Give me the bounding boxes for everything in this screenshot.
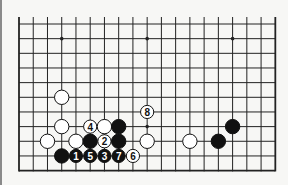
black-stone (111, 134, 125, 148)
move-number: 8 (144, 107, 150, 118)
white-stone (97, 119, 111, 133)
black-stone-disc (83, 134, 97, 148)
black-stone (225, 119, 239, 133)
white-stone-move-2: 2 (98, 135, 111, 148)
white-stone-disc (140, 134, 154, 148)
white-stone (69, 134, 83, 148)
black-stone (111, 119, 125, 133)
move-number: 2 (102, 136, 108, 147)
white-stone-move-4: 4 (84, 120, 97, 133)
move-number: 5 (87, 151, 93, 162)
white-stone-disc (40, 134, 54, 148)
move-number: 4 (87, 122, 93, 133)
white-stone-move-6: 6 (126, 149, 139, 162)
white-stone-disc (97, 119, 111, 133)
black-stone-disc (211, 134, 225, 148)
black-stone-disc (111, 119, 125, 133)
white-stone-disc (55, 90, 69, 104)
go-board: 48215376 (0, 0, 288, 185)
black-stone-move-3: 3 (98, 149, 111, 162)
white-stone-disc (183, 134, 197, 148)
white-stone (140, 134, 154, 148)
black-stone-move-1: 1 (69, 149, 82, 162)
move-number: 1 (73, 151, 79, 162)
black-stone (211, 134, 225, 148)
black-stone-disc (111, 134, 125, 148)
move-number: 7 (116, 151, 122, 162)
move-number: 3 (102, 151, 108, 162)
white-stone (40, 134, 54, 148)
star-point (145, 125, 149, 129)
black-stone (83, 134, 97, 148)
white-stone-disc (55, 119, 69, 133)
move-number: 6 (130, 151, 136, 162)
star-point (60, 37, 64, 41)
white-stone (55, 90, 69, 104)
white-stone (183, 134, 197, 148)
black-stone-move-5: 5 (84, 149, 97, 162)
white-stone (55, 119, 69, 133)
black-stone-disc (225, 119, 239, 133)
black-stone-move-7: 7 (112, 149, 125, 162)
star-point (231, 37, 235, 41)
star-point (145, 37, 149, 41)
black-stone (55, 149, 69, 163)
black-stone-disc (55, 149, 69, 163)
white-stone-disc (69, 134, 83, 148)
white-stone-move-8: 8 (141, 105, 154, 118)
